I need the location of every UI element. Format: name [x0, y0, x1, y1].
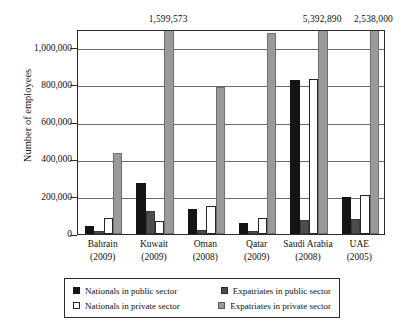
bar-group [335, 31, 385, 234]
light-gray-square-icon [218, 302, 225, 309]
y-axis-tick-label: 800,000 [41, 80, 72, 90]
chart-legend: Nationals in public sector Expatriates i… [64, 278, 340, 318]
bar [318, 30, 327, 234]
bar [351, 219, 360, 234]
white-square-icon [73, 302, 80, 309]
y-axis-tick [70, 48, 77, 49]
bar [216, 87, 225, 234]
y-axis-tick [70, 160, 77, 161]
legend-item-nationals-public: Nationals in public sector [73, 286, 221, 296]
y-axis-tick-labels: 0200,000400,000600,000800,0001,000,000 [0, 30, 72, 235]
dark-gray-square-icon [221, 287, 228, 294]
x-axis-country: Kuwait [140, 239, 168, 249]
x-axis-country: Qatar [246, 239, 267, 249]
bar [258, 218, 267, 234]
legend-row: Nationals in private sector Expatriates … [73, 298, 331, 313]
legend-row: Nationals in public sector Expatriates i… [73, 283, 331, 298]
x-axis-country: Oman [194, 239, 217, 249]
y-axis-tick [70, 123, 77, 124]
bar [197, 230, 206, 234]
bar [267, 33, 276, 234]
bar-value-annotation: 2,538,000 [333, 14, 403, 24]
legend-item-expatriates-public: Expatriates in public sector [221, 286, 331, 296]
bar [164, 30, 173, 234]
bar-group [232, 31, 283, 234]
bar-group [181, 31, 232, 234]
bar-value-annotation: 1,599,573 [128, 14, 208, 24]
legend-item-expatriates-private: Expatriates in private sector [218, 301, 331, 311]
y-axis-tick-label: 600,000 [41, 117, 72, 127]
x-axis-tick-labels: Bahrain(2009)Kuwait(2009)Oman(2008)Qatar… [77, 238, 385, 270]
bar [360, 195, 369, 234]
plot-area [77, 30, 385, 235]
y-axis-tick [70, 197, 77, 198]
black-square-icon [73, 287, 80, 294]
y-axis-tick-label: 400,000 [41, 154, 72, 164]
y-axis-tick [70, 235, 77, 236]
bar-chart-figure: 1,599,573 5,392,890 2,538,000 Number of … [0, 0, 403, 331]
legend-label: Nationals in public sector [85, 286, 177, 296]
bar [94, 231, 103, 234]
bar [248, 231, 257, 234]
x-axis-tick-label: UAE(2005) [320, 238, 399, 263]
bar [309, 79, 318, 234]
bar [146, 211, 155, 234]
bar [136, 183, 145, 234]
bar [104, 218, 113, 234]
legend-label: Expatriates in public sector [233, 286, 331, 296]
bar [290, 80, 299, 234]
bar [188, 209, 197, 234]
x-axis-year: (2005) [320, 251, 399, 264]
bar [206, 206, 215, 234]
bar [155, 221, 164, 234]
bar-group [78, 31, 129, 234]
bar [370, 30, 379, 234]
x-axis-country: Bahrain [88, 239, 118, 249]
bar [85, 226, 94, 234]
y-axis-tick [70, 85, 77, 86]
bar-group [283, 31, 334, 234]
bar [239, 223, 248, 234]
y-axis-tick-label: 200,000 [41, 192, 72, 202]
bar [342, 197, 351, 234]
x-axis-country: UAE [350, 239, 370, 249]
legend-label: Nationals in private sector [85, 301, 180, 311]
legend-item-nationals-private: Nationals in private sector [73, 301, 218, 311]
y-axis-tick-label: 1,000,000 [34, 43, 72, 53]
bar-group [129, 31, 180, 234]
legend-label: Expatriates in private sector [230, 301, 331, 311]
bar [113, 153, 122, 234]
bar [300, 220, 309, 234]
